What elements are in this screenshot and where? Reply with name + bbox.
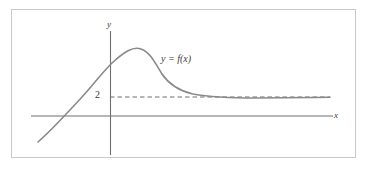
- x-axis-label: x: [334, 111, 338, 120]
- asymptote-tick-label: 2: [95, 90, 100, 100]
- curve-label: y = f(x): [161, 54, 191, 64]
- figure-container: y x 2 y = f(x): [0, 0, 368, 172]
- y-axis-label: y: [107, 20, 111, 29]
- plot-canvas: [0, 0, 368, 172]
